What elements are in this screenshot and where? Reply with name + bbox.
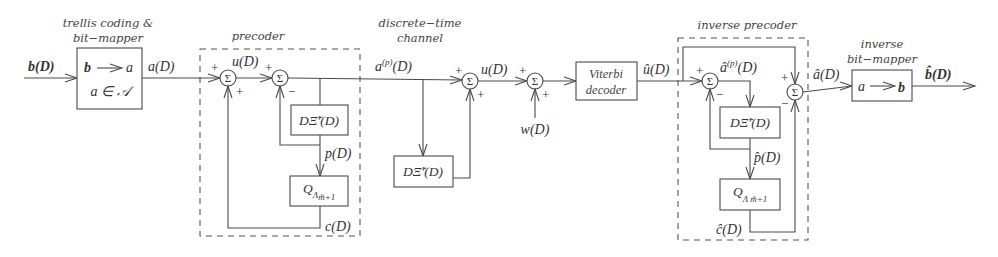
precoder-filter-label: DΞ̃′(D)	[298, 113, 340, 128]
caption-inverse-precoder: inverse precoder	[698, 18, 798, 32]
sign-plus: +	[265, 60, 272, 75]
sign-plus: +	[236, 84, 243, 99]
sum-symbol: Σ	[532, 75, 538, 87]
caption-mapper-1: trellis coding &	[63, 16, 154, 30]
label-inv-c: ĉ(D)	[716, 222, 742, 238]
sum-symbol: Σ	[707, 75, 713, 87]
channel-filter-label: DΞ̃′(D)	[402, 164, 444, 179]
quantizer-lambda: Λ	[742, 194, 749, 204]
caption-channel-1: discrete−time	[379, 16, 462, 30]
viterbi-label-2: decoder	[586, 83, 626, 97]
caption-channel-2: channel	[397, 31, 443, 45]
label-precoder-p: p(D)	[324, 146, 352, 162]
mapper-b: b	[84, 60, 91, 75]
label-inv-a-hat: â	[720, 60, 727, 75]
quantizer-index: m̃+1	[750, 194, 767, 204]
label-inv-p: p̂(D)	[753, 150, 781, 166]
quantizer-q: Q	[733, 184, 743, 199]
inv-filter-label: DΞ̃′(D)	[729, 115, 771, 130]
label-precoder-c: c(D)	[325, 219, 351, 235]
sign-plus: +	[211, 60, 218, 75]
label-precoded-tail: (D)	[393, 59, 413, 75]
sign-minus: −	[288, 84, 295, 99]
sign-plus: +	[696, 63, 703, 78]
sign-plus: +	[477, 87, 484, 102]
caption-inv-mapper-1: inverse	[861, 37, 904, 51]
label-precoded-sup: (p)	[382, 57, 393, 67]
label-input: b(D)	[28, 59, 54, 75]
mapper-set: a ∈ 𝒜	[91, 84, 134, 99]
label-inv-a-sup: (p)	[727, 58, 738, 68]
viterbi-label-1: Viterbi	[589, 67, 623, 81]
sum-symbol: Σ	[277, 72, 283, 84]
sign-minus: −	[716, 87, 723, 102]
label-recovered-a: â(D)	[813, 67, 840, 83]
label-mapper-out: a(D)	[148, 59, 175, 75]
label-decoded-u: û(D)	[643, 62, 670, 78]
precoded-line	[288, 78, 462, 80]
sum-symbol: Σ	[792, 86, 798, 98]
sign-plus: +	[542, 87, 549, 102]
sign-minus: −	[781, 96, 788, 111]
label-precoder-u: u(D)	[232, 54, 259, 70]
sum-symbol: Σ	[225, 72, 231, 84]
inv-mapper-a: a	[858, 79, 865, 94]
sign-plus: +	[455, 63, 462, 78]
label-inv-a-tail: (D)	[738, 60, 758, 76]
sum-symbol: Σ	[467, 75, 473, 87]
mapper-block	[77, 48, 142, 109]
channel-filter-out	[453, 89, 470, 178]
sign-plus: +	[781, 70, 788, 85]
label-output: b̂(D)	[925, 65, 951, 83]
sign-plus: +	[519, 63, 526, 78]
label-precoded: a(p)(D)	[375, 57, 412, 75]
caption-precoder: precoder	[232, 29, 286, 43]
quantizer-index: m̃+1	[318, 192, 335, 202]
label-precoded-a: a	[375, 59, 382, 74]
label-channel-u: u(D)	[481, 62, 508, 78]
mapper-a: a	[126, 60, 133, 75]
inv-mapper-b: b	[898, 80, 905, 95]
block-diagram: trellis coding & bit−mapper precoder dis…	[0, 0, 998, 257]
quantizer-q: Q	[303, 181, 313, 196]
caption-inv-mapper-2: bit−mapper	[847, 52, 919, 66]
caption-mapper-2: bit−mapper	[73, 31, 145, 45]
label-inv-a: â(p)(D)	[720, 58, 757, 76]
label-noise: w(D)	[521, 122, 550, 138]
